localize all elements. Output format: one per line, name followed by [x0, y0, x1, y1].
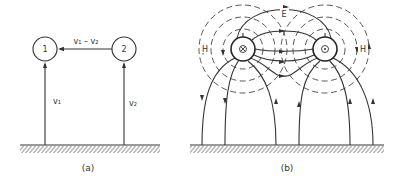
- left-conductor: [231, 33, 255, 61]
- relative-velocity-arrow: v₁ – v₂: [58, 37, 112, 51]
- figure: 1 2 v₁ – v₂ v₁ v₂ (a): [0, 0, 403, 183]
- relative-velocity-label: v₁ – v₂: [74, 37, 99, 46]
- magnetic-field-right-label: H: [360, 45, 366, 54]
- panel-a: 1 2 v₁ – v₂ v₁ v₂ (a): [20, 37, 160, 173]
- caption-a: (a): [82, 163, 95, 173]
- caption-b: (b): [281, 163, 294, 173]
- panel-b: E H H (b): [190, 5, 384, 173]
- conductor-1-label: 1: [42, 45, 47, 54]
- velocity-1-label: v₁: [53, 97, 61, 106]
- velocity-2-arrow: v₂: [122, 62, 137, 145]
- velocity-2-label: v₂: [129, 99, 137, 108]
- conductor-2-label: 2: [121, 45, 126, 54]
- right-conductor: [313, 33, 337, 61]
- ground-b: [190, 145, 384, 153]
- conductor-1: 1: [33, 37, 57, 61]
- magnetic-field-left-label: H: [202, 45, 208, 54]
- conductor-2: 2: [112, 37, 136, 61]
- electric-field-label: E: [281, 10, 286, 19]
- velocity-1-arrow: v₁: [43, 62, 61, 145]
- ground-a: [20, 145, 160, 153]
